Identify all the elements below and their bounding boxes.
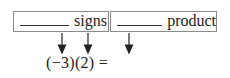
arrows-diagram [0, 0, 230, 78]
arrow-down-icon [126, 33, 133, 53]
math-expression: (−3)(2) = [46, 54, 108, 72]
arrow-down-icon [85, 33, 92, 53]
arrow-down-icon [59, 33, 66, 53]
